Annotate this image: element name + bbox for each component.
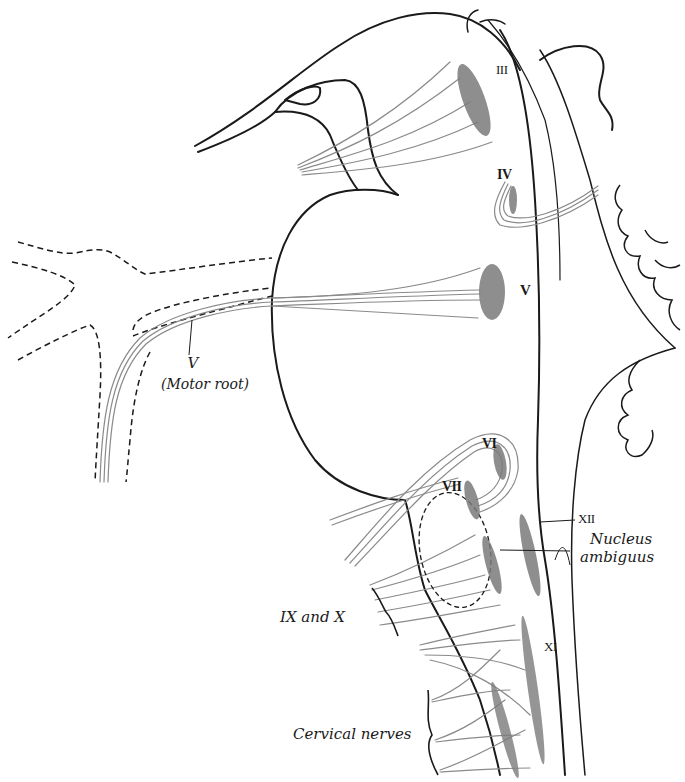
nucleus-iv-stipple xyxy=(509,186,517,214)
nerve-fibers xyxy=(100,62,598,772)
cervical-stipple xyxy=(487,680,523,779)
label-nucleus-iii: III xyxy=(496,63,508,76)
label-motor-root: (Motor root) xyxy=(161,377,249,391)
fourth-ventricle-line xyxy=(540,50,675,348)
label-nucleus-xi: XI xyxy=(544,640,557,653)
label-nucleus-iv: IV xyxy=(497,168,512,182)
nucleus-iii-stipple xyxy=(451,61,498,140)
label-nucleus-ambiguus-2: ambiguus xyxy=(580,550,654,565)
thalamus-outline xyxy=(275,80,398,195)
label-nucleus-v: V xyxy=(520,283,530,298)
cerebrum-lower-edge xyxy=(198,112,275,152)
ix-x-brace xyxy=(372,588,398,636)
thalamus-cap xyxy=(285,87,320,105)
cranial-nerve-nuclei-diagram: III IV V V (Motor root) VI VII XII Nucle… xyxy=(0,0,685,782)
brainstem-inner-line xyxy=(488,20,560,280)
pons-outline xyxy=(272,190,405,500)
cerebellum-outline xyxy=(540,46,613,130)
nucleus-v-stipple xyxy=(479,264,505,320)
label-motor-root-numeral: V xyxy=(178,356,208,371)
nucleus-ambiguus-stipple xyxy=(478,534,505,595)
braces xyxy=(372,588,438,775)
label-nerves-ix-x: IX and X xyxy=(280,610,345,625)
label-nucleus-vii: VII xyxy=(442,480,462,494)
motor-root-leader xyxy=(189,320,192,355)
nucleus-xi-stipple xyxy=(518,615,549,765)
cerebellar-folia xyxy=(615,185,680,456)
ambiguus-hook xyxy=(555,548,570,566)
xii-leader xyxy=(540,520,575,522)
trigeminal-dashed-outline xyxy=(8,242,272,482)
label-cervical-nerves: Cervical nerves xyxy=(293,727,411,742)
motor-root-v-fibers xyxy=(100,290,480,482)
label-nucleus-vi: VI xyxy=(482,437,497,451)
label-nucleus-ambiguus-1: Nucleus xyxy=(590,532,652,547)
diagram-drawing xyxy=(0,0,685,782)
thalamus-inner xyxy=(275,112,358,190)
cervical-brace xyxy=(428,690,438,775)
label-nucleus-xii: XII xyxy=(578,512,595,525)
nucleus-vii-stipple xyxy=(461,479,483,521)
